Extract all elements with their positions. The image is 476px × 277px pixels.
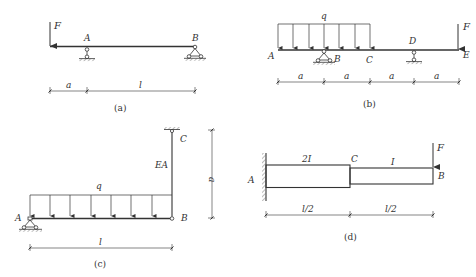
load-label: q — [96, 181, 102, 191]
support-b-label: B — [191, 33, 199, 43]
hinge-b-icon — [170, 217, 174, 221]
force-label: F — [462, 21, 471, 32]
point-c-label: C — [180, 134, 187, 144]
force-label: F — [53, 20, 62, 31]
section-i-label: I — [390, 157, 395, 167]
section-2i-label: 2I — [301, 154, 312, 164]
point-d-label: D — [408, 36, 416, 46]
point-c-label: C — [366, 55, 373, 65]
roller-support-icon — [79, 48, 95, 61]
point-b-label: B — [333, 54, 341, 64]
caption-c: (c) — [94, 259, 106, 269]
point-a-label: A — [247, 175, 255, 185]
caption-b: (b) — [363, 99, 376, 109]
fixed-wall-icon — [262, 153, 266, 201]
figure-d — [262, 143, 435, 218]
point-b-label: B — [180, 213, 188, 223]
dimension-label: a — [434, 71, 439, 81]
dimension-line — [277, 78, 461, 85]
dimension-a-label: a — [66, 80, 71, 90]
pin-support-icon — [184, 45, 206, 61]
distributed-load — [278, 24, 370, 48]
point-b-label: B — [437, 171, 445, 181]
dimension-label: a — [389, 71, 394, 81]
point-a-label: A — [267, 51, 275, 61]
point-e-label: E — [462, 50, 470, 60]
figure-a — [49, 22, 207, 94]
caption-a: (a) — [114, 103, 126, 113]
support-a-label: A — [83, 33, 91, 43]
section-2i — [266, 165, 350, 188]
caption-d: (d) — [344, 232, 357, 242]
rod-ea-label: EA — [154, 160, 169, 170]
pin-support-icon — [313, 50, 335, 65]
point-c-label: C — [351, 154, 358, 164]
dimension-label: l/2 — [385, 204, 397, 214]
dimension-label: l/2 — [302, 204, 314, 214]
dimension-label: a — [298, 71, 303, 81]
dimension-line — [265, 211, 435, 218]
beam-diagrams: F A B a l (a) — [0, 0, 476, 277]
dimension-horizontal-label: l — [99, 237, 102, 247]
force-label: F — [436, 142, 445, 153]
dimension-label: a — [344, 71, 349, 81]
dimension-line — [208, 129, 215, 220]
load-label: q — [321, 11, 327, 21]
point-a-label: A — [14, 213, 22, 223]
ceiling-hinge-icon — [164, 127, 180, 133]
figure-c — [19, 127, 215, 251]
distributed-load — [30, 195, 172, 216]
dimension-l-label: l — [139, 80, 142, 90]
section-i — [350, 168, 433, 184]
roller-support-icon — [406, 51, 422, 64]
dimension-vertical-label: a — [207, 177, 217, 182]
